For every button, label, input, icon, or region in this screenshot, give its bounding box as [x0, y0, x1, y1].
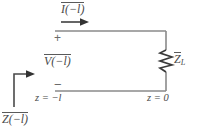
- voltage-label: V(−l): [44, 54, 71, 67]
- polarity-plus-sign: +: [54, 32, 61, 44]
- input-impedance-arrow-head: [26, 70, 35, 78]
- position-label-right: z = 0: [147, 93, 169, 104]
- load-impedance-subscript: L: [181, 58, 186, 67]
- load-impedance-symbol: Z: [174, 52, 181, 65]
- input-impedance-label: Z(−l): [2, 112, 28, 125]
- circuit-diagram: I(−l) + V(−l) − ZL z = −l z = 0 Z(−l): [0, 0, 197, 135]
- input-impedance-label-text: Z(−l): [2, 112, 28, 125]
- polarity-minus-sign: −: [54, 78, 62, 91]
- circuit-wiring: [0, 0, 197, 135]
- input-impedance-bracket-line: [14, 74, 28, 107]
- voltage-label-text: V(−l): [44, 54, 71, 67]
- position-label-left: z = −l: [35, 93, 61, 104]
- current-arrow-head: [80, 18, 89, 26]
- current-label: I(−l): [61, 2, 84, 15]
- load-impedance-label: ZL: [174, 52, 185, 67]
- load-resistor-zigzag-icon: [160, 50, 172, 72]
- current-label-text: I(−l): [61, 2, 84, 15]
